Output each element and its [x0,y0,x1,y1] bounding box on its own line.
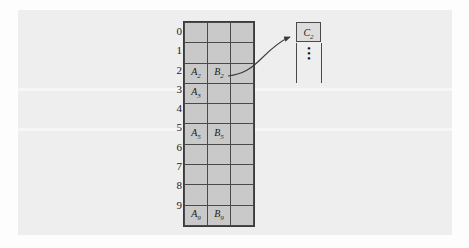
cell-r2c3 [231,63,254,83]
cell-r4c1 [185,104,208,124]
cell-r6c3 [231,144,254,164]
cell-r0c3 [231,23,254,43]
cell-r3c1: A3 [185,83,208,103]
cell-label-a5-sub: 5 [197,133,201,141]
cell-r4c2 [208,104,231,124]
overflow-node: C2 • • • [296,22,323,83]
table-row [185,165,254,185]
row-index-0: 0 [164,22,182,41]
row-index-6: 6 [164,138,182,157]
cell-r0c2 [208,23,231,43]
row-index-2: 2 [164,61,182,80]
cell-r1c1 [185,43,208,63]
cell-r2c2: B2 [208,63,231,83]
cell-r7c1 [185,165,208,185]
cell-r8c3 [231,185,254,205]
row-index-4: 4 [164,99,182,118]
row-index-5: 5 [164,118,182,137]
table-row [185,144,254,164]
cell-r5c1: A5 [185,124,208,144]
table-row: A5 B5 [185,124,254,144]
row-index-3: 3 [164,80,182,99]
figure-screenshot: 0 1 2 3 4 5 6 7 8 9 A2 B2 [0,0,469,248]
table-row [185,104,254,124]
table-row: A2 B2 [185,63,254,83]
row-index-column: 0 1 2 3 4 5 6 7 8 9 [164,22,182,215]
cell-r9c3 [231,205,254,225]
table-row [185,23,254,43]
cell-label-a3-sub: 3 [197,92,201,100]
cell-r7c2 [208,165,231,185]
overflow-label-sub: 2 [310,33,314,41]
table-row [185,43,254,63]
cell-r1c3 [231,43,254,63]
cell-label-b9-sub: 9 [220,214,224,222]
cell-label-a9-sub: 9 [197,214,201,222]
cell-r4c3 [231,104,254,124]
cell-label-b2-sub: 2 [220,72,224,80]
table-row: A3 [185,83,254,103]
cell-r3c3 [231,83,254,103]
row-index-9: 9 [164,196,182,215]
row-index-7: 7 [164,157,182,176]
cell-label-a2-sub: 2 [197,72,201,80]
overflow-vertical-ellipsis: • • • [296,46,322,61]
cell-r0c1 [185,23,208,43]
row-index-8: 8 [164,176,182,195]
cell-r8c2 [208,185,231,205]
overflow-cell-c2: C2 [296,22,321,42]
cell-r6c1 [185,144,208,164]
row-index-1: 1 [164,41,182,60]
table-row [185,185,254,205]
cell-r9c2: B9 [208,205,231,225]
cell-r8c1 [185,185,208,205]
cell-r7c3 [231,165,254,185]
cell-r5c2: B5 [208,124,231,144]
cell-r3c2 [208,83,231,103]
cell-r1c2 [208,43,231,63]
hash-table-wrapper: A2 B2 A3 A5 B5 [184,22,250,215]
cell-r6c2 [208,144,231,164]
ellipsis-dot-3: • [296,56,322,61]
table-row: A9 B9 [185,205,254,225]
hash-table: A2 B2 A3 A5 B5 [184,22,254,226]
cell-r5c3 [231,124,254,144]
cell-r2c1: A2 [185,63,208,83]
cell-label-b5-sub: 5 [220,133,224,141]
cell-r9c1: A9 [185,205,208,225]
